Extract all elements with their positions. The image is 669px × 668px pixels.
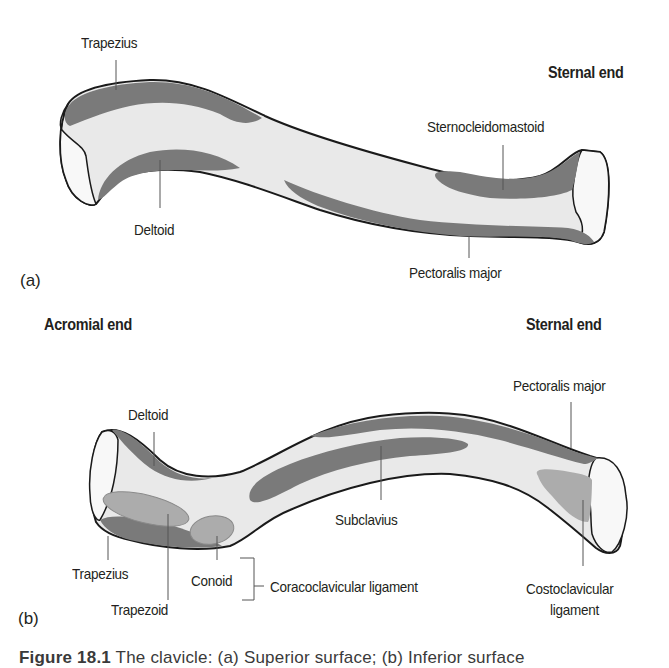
label-b-sternal-end: Sternal end bbox=[526, 316, 601, 334]
label-b-costoclavicular-line2: ligament bbox=[550, 601, 599, 619]
figure-caption: Figure 18.1 The clavicle: (a) Superior s… bbox=[19, 648, 525, 668]
label-b-coracoclavicular-ligament: Coracoclavicular ligament bbox=[270, 578, 418, 596]
label-b-subclavius: Subclavius bbox=[335, 511, 398, 529]
label-b-trapezoid: Trapezoid bbox=[111, 601, 168, 619]
label-b-deltoid: Deltoid bbox=[128, 406, 168, 424]
label-b-pectoralis-major: Pectoralis major bbox=[513, 377, 605, 395]
label-a-sternal-end: Sternal end bbox=[548, 64, 623, 82]
panel-label-b: (b) bbox=[18, 609, 39, 629]
label-a-sternocleidomastoid: Sternocleidomastoid bbox=[427, 118, 544, 136]
label-b-conoid: Conoid bbox=[191, 572, 232, 590]
label-b-acromial-end: Acromial end bbox=[44, 316, 132, 334]
label-b-costoclavicular: Costoclavicular bbox=[526, 580, 613, 598]
clavicle-b-sternal-facet bbox=[588, 458, 627, 552]
label-a-trapezius: Trapezius bbox=[81, 34, 137, 52]
label-a-deltoid: Deltoid bbox=[134, 221, 174, 239]
caption-text: The clavicle: (a) Superior surface; (b) … bbox=[111, 648, 525, 667]
caption-figure-number: Figure 18.1 bbox=[19, 648, 111, 667]
clavicle-b-drawing bbox=[90, 402, 627, 600]
panel-label-a: (a) bbox=[20, 271, 41, 291]
label-b-trapezius: Trapezius bbox=[72, 565, 128, 583]
label-a-pectoralis-major: Pectoralis major bbox=[409, 264, 501, 282]
